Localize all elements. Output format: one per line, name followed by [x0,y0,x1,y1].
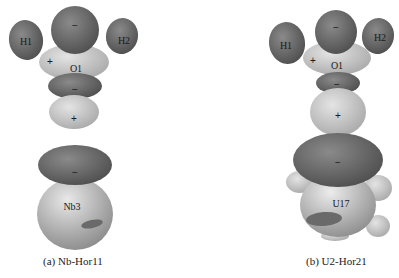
sign-lower-lobe: + [71,113,77,124]
sign-top-lobe: − [333,22,339,33]
sign-o-below: − [72,84,78,95]
atom-label-h1: H1 [280,40,292,51]
sign-o-left: + [47,56,53,67]
atom-label-metal: Nb3 [63,201,80,212]
sign-o-left: + [310,55,316,66]
sign-o-below: − [334,79,340,90]
atom-label-o: O1 [70,63,82,74]
atom-label-o: O1 [331,60,343,71]
caption-a: (a) Nb-Hor11 [43,255,103,267]
orbital-isosurface-b [200,0,399,278]
sign-metal-cap: − [335,157,341,168]
sign-metal-cap: − [72,167,78,178]
panel-a: H1 H2 O1 Nb3 − + − + − (a) Nb-Hor11 [0,0,200,278]
caption-b: (b) U2-Hor21 [306,255,367,267]
sign-lower-lobe: + [335,110,341,121]
atom-label-h2: H2 [118,35,130,46]
atom-label-h2: H2 [374,32,386,43]
panel-b: H1 H2 O1 U17 − + − + − (b) U2-Hor21 [200,0,399,278]
sign-top-lobe: − [72,20,78,31]
atom-label-h1: H1 [20,36,32,47]
atom-label-metal: U17 [332,198,349,209]
